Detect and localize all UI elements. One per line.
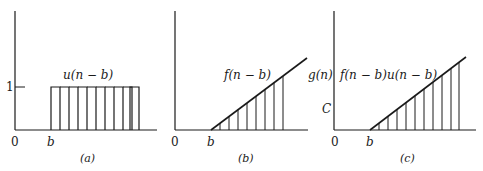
y-tick-label-a: 1	[6, 80, 14, 94]
curve-label-b: f(n − b)	[223, 68, 271, 82]
caption-b: (b)	[238, 152, 254, 165]
caption-a: (a)	[80, 152, 95, 165]
y-tick-label-c: C	[322, 102, 331, 116]
ramp-samples-b	[220, 76, 283, 130]
y-axis-label-c: g(n)	[308, 68, 333, 82]
curve-label-c: f(n − b)u(n − b)	[339, 68, 437, 82]
unit-step-pulses	[51, 87, 139, 130]
origin-label-c: 0	[331, 135, 339, 149]
shift-label-c: b	[366, 135, 374, 149]
origin-label-b: 0	[171, 135, 179, 149]
shift-label-a: b	[47, 135, 55, 149]
origin-label-a: 0	[11, 135, 19, 149]
shift-label-b: b	[207, 135, 215, 149]
figure: u(n − b) 1 0 b (a) f(n − b) 0 b (b)	[0, 0, 483, 171]
curve-label-a: u(n − b)	[63, 68, 114, 82]
caption-c: (c)	[400, 152, 415, 165]
